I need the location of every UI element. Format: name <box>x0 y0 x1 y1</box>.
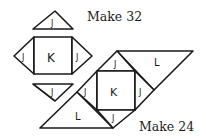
unit-top-j-label: J <box>50 19 53 28</box>
block-right-j-label: J <box>138 88 141 97</box>
unit-left-j-label: J <box>21 53 24 62</box>
block-top-j-label: J <box>113 60 116 69</box>
block-k-label: K <box>110 86 118 99</box>
unit-right-j-triangle <box>72 37 92 74</box>
caption-make-32: Make 32 <box>87 9 142 24</box>
block-lower-left-l-label: L <box>75 111 81 122</box>
unit-bottom-j-label: J <box>50 88 53 97</box>
block-upper-right-l-label: L <box>154 57 160 68</box>
unit-k-label: K <box>47 51 56 65</box>
block-bottom-j-label: J <box>111 114 114 123</box>
block-left-j-label: J <box>83 88 86 97</box>
caption-make-24: Make 24 <box>139 119 194 134</box>
unit-right-j-label: J <box>75 53 78 62</box>
quilt-diagram: J J K J J Make 32 L L J J K J J Make 24 <box>0 0 206 139</box>
